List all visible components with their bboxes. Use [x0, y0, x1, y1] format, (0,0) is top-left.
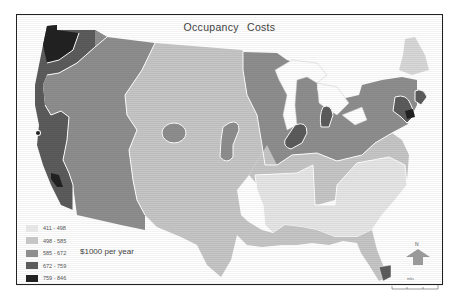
us-choropleth-map	[17, 15, 444, 286]
legend-item: 759 - 846	[26, 272, 66, 285]
scale-label: miles	[407, 277, 414, 281]
legend-swatch	[26, 275, 38, 282]
map-legend: 411 - 498 498 - 585 585 - 672 672 - 759 …	[26, 222, 66, 285]
legend-item: 498 - 585	[26, 235, 66, 248]
legend-swatch	[26, 262, 38, 269]
scale-bar-icon	[391, 283, 439, 291]
legend-item: 585 - 672	[26, 247, 66, 260]
legend-swatch	[26, 225, 38, 232]
north-label: N	[415, 241, 419, 247]
scale-bar: miles	[391, 277, 439, 285]
unit-label: $1000 per year	[80, 247, 134, 256]
legend-label: 672 - 759	[43, 263, 66, 269]
print-texture	[17, 15, 444, 286]
legend-label: 411 - 498	[43, 225, 66, 231]
legend-item: 672 - 759	[26, 260, 66, 273]
legend-label: 759 - 846	[43, 275, 66, 281]
map-frame: Occupancy Costs	[16, 14, 443, 285]
north-arrow: N	[403, 241, 433, 269]
legend-swatch	[26, 237, 38, 244]
legend-item: 411 - 498	[26, 222, 66, 235]
legend-label: 498 - 585	[43, 238, 66, 244]
legend-label: 585 - 672	[43, 250, 66, 256]
legend-swatch	[26, 250, 38, 257]
